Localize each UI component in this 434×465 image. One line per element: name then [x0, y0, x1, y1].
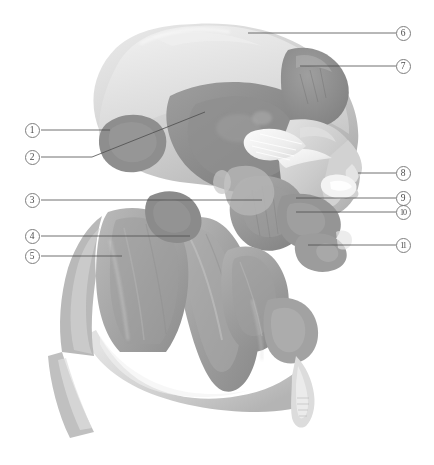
- callout-marker-4[interactable]: 4: [25, 229, 40, 244]
- occipital-muscle-patch: [281, 48, 349, 128]
- mandible-chin-region: [295, 230, 352, 272]
- anatomy-illustration: [0, 0, 434, 465]
- callout-marker-10[interactable]: 10: [396, 205, 411, 220]
- callout-marker-6[interactable]: 6: [396, 26, 411, 41]
- callout-marker-8[interactable]: 8: [396, 166, 411, 181]
- callout-marker-3[interactable]: 3: [25, 193, 40, 208]
- callout-marker-7[interactable]: 7: [396, 59, 411, 74]
- anterior-throat: [291, 356, 314, 428]
- anatomy-figure: 1234567891011: [0, 0, 434, 465]
- callout-marker-5[interactable]: 5: [25, 249, 40, 264]
- strap-muscles: [264, 298, 319, 364]
- callout-marker-1[interactable]: 1: [25, 123, 40, 138]
- callout-marker-9[interactable]: 9: [396, 191, 411, 206]
- parotid-region: [213, 166, 274, 216]
- callout-marker-11[interactable]: 11: [396, 238, 411, 253]
- callout-marker-2[interactable]: 2: [25, 150, 40, 165]
